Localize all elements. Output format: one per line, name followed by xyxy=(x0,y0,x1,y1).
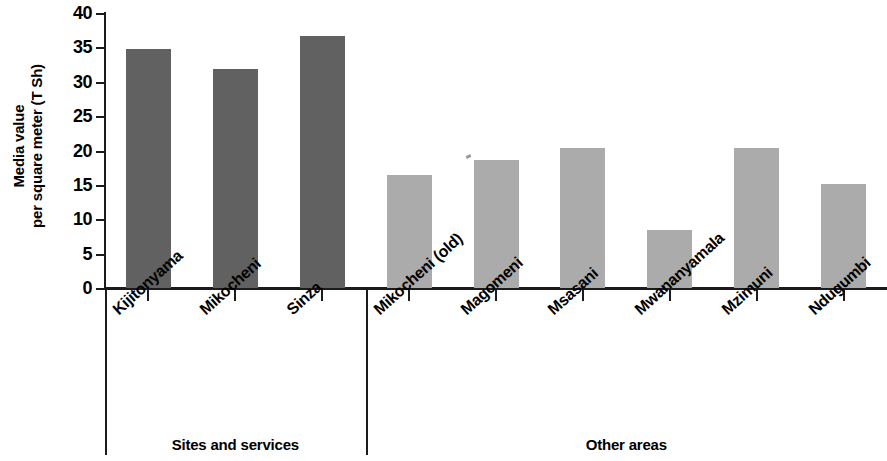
y-axis-tick-mark xyxy=(96,254,105,256)
y-axis-tick-mark xyxy=(96,116,105,118)
bar-sinza xyxy=(300,36,345,288)
y-axis-tick-label: 5 xyxy=(48,245,92,263)
y-axis-tick-mark xyxy=(96,185,105,187)
y-axis-tick-mark xyxy=(96,13,105,15)
bar-mzimuni xyxy=(734,148,779,288)
y-axis-tick-label: 25 xyxy=(48,107,92,125)
y-axis-tick-label: 10 xyxy=(48,210,92,228)
y-axis-tick-mark xyxy=(96,288,105,290)
y-axis-title-line-2: per square meter (T Sh) xyxy=(28,64,46,228)
plot-area: 0510152025303540 xyxy=(105,13,887,288)
group-label-sites-and-services: Sites and services xyxy=(105,437,366,452)
y-axis-tick-mark xyxy=(96,47,105,49)
group-divider-line xyxy=(366,290,368,455)
y-axis-tick-label: 30 xyxy=(48,73,92,91)
y-axis-tick-mark xyxy=(96,82,105,84)
y-axis-tick-label: 20 xyxy=(48,142,92,160)
y-axis-tick-label: 15 xyxy=(48,176,92,194)
y-axis-title-line-1: Media value xyxy=(10,105,27,188)
y-axis-tick-mark xyxy=(96,151,105,153)
y-axis-tick-label: 35 xyxy=(48,38,92,56)
bar-msasani xyxy=(560,148,605,288)
y-axis-tick-mark xyxy=(96,219,105,221)
bar-chart-figure: Media value per square meter (T Sh) 0510… xyxy=(0,0,887,461)
y-axis-tick-label: 0 xyxy=(48,279,92,297)
group-divider-line xyxy=(105,290,107,455)
group-label-other-areas: Other areas xyxy=(366,437,887,452)
y-axis-tick-label: 40 xyxy=(48,4,92,22)
bar-kijitonyama xyxy=(126,49,171,288)
